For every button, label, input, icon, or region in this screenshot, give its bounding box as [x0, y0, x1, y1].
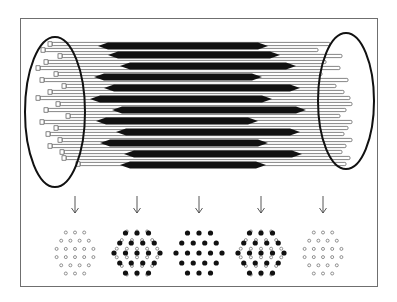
filament-bundle-diagram [0, 0, 397, 302]
open-filament-dot [308, 264, 311, 267]
open-filament-dot [83, 247, 86, 250]
open-filament-dot [60, 239, 63, 242]
filament-end-cap [56, 102, 60, 106]
open-filament-dot [69, 239, 72, 242]
solid-filament-dot [258, 270, 263, 275]
solid-filament-dot [202, 240, 207, 245]
solid-filament-dot [270, 270, 275, 275]
solid-filament-dot [235, 250, 240, 255]
open-filament-dot [260, 247, 263, 250]
open-filament-dot [92, 247, 95, 250]
filament-end-cap [62, 156, 66, 160]
solid-filament-dot [185, 230, 190, 235]
solid-filament-dot [146, 250, 151, 255]
solid-filament-dot [219, 250, 224, 255]
filament-end-cap [60, 150, 64, 154]
solid-filament-dot [123, 250, 128, 255]
open-filament-dot [156, 247, 159, 250]
open-filament-dot [74, 256, 77, 259]
open-filament-dot [69, 264, 72, 267]
solid-filament-dot [191, 260, 196, 265]
solid-filament-dot [208, 250, 213, 255]
open-filament-dot [125, 256, 128, 259]
open-filament-dot [322, 231, 325, 234]
open-filament-dot [125, 247, 128, 250]
open-filament-dot [64, 231, 67, 234]
solid-filament-dot [264, 240, 269, 245]
open-filament-dot [146, 247, 149, 250]
open-filaments [36, 42, 352, 166]
solid-filament-dot [258, 250, 263, 255]
open-filament-dot [322, 247, 325, 250]
open-filament-dot [317, 239, 320, 242]
open-filament-dot [312, 231, 315, 234]
solid-filament-dot [146, 230, 151, 235]
open-filament-dot [55, 247, 58, 250]
solid-filament [100, 140, 268, 147]
filament-end-cap [54, 72, 58, 76]
filament-end-cap [46, 132, 50, 136]
solid-filament-dot [196, 270, 201, 275]
open-filament-dot [312, 272, 315, 275]
solid-filament-dot [117, 240, 122, 245]
open-filament [70, 114, 340, 117]
open-filament-dot [78, 239, 81, 242]
filament-end-cap [40, 120, 44, 124]
filament-end-cap [48, 90, 52, 94]
solid-filament-dot [276, 260, 281, 265]
filament-end-cap [44, 60, 48, 64]
solid-filament-dot [214, 260, 219, 265]
open-filament-dot [249, 256, 252, 259]
solid-filament-dot [129, 240, 134, 245]
open-filament-dot [335, 264, 338, 267]
solid-filament-dot [185, 250, 190, 255]
open-filament-dot [331, 272, 334, 275]
open-filament-dot [270, 256, 273, 259]
open-filament-dot [326, 239, 329, 242]
solid-filament-dot [270, 230, 275, 235]
open-filament-dot [74, 272, 77, 275]
open-filament-dot [78, 264, 81, 267]
solid-filament [124, 151, 302, 158]
open-filament-dot [340, 256, 343, 259]
solid-filament-dot [123, 230, 128, 235]
open-filament-dot [136, 256, 139, 259]
filament-end-cap [36, 96, 40, 100]
solid-filament-dot [179, 240, 184, 245]
open-filament-dot [60, 264, 63, 267]
open-filament-dot [239, 247, 242, 250]
filament-end-cap [48, 42, 52, 46]
filament-end-cap [41, 48, 45, 52]
solid-filament-dot [140, 240, 145, 245]
solid-filament-dot [134, 230, 139, 235]
solid-filament-dot [196, 230, 201, 235]
open-filament-dot [83, 272, 86, 275]
solid-filament-dot [253, 260, 258, 265]
solid-filament-dot [191, 240, 196, 245]
solid-filament-dot [196, 250, 201, 255]
solid-filament [94, 74, 262, 81]
open-filament-dot [87, 264, 90, 267]
solid-filament-dot [208, 230, 213, 235]
open-filament-dot [55, 256, 58, 259]
solid-filament-dot [129, 260, 134, 265]
solid-filament-dot [134, 270, 139, 275]
open-filament-dot [156, 256, 159, 259]
solid-filament [104, 85, 300, 92]
open-filament-dot [270, 247, 273, 250]
solid-filament-dot [146, 270, 151, 275]
solid-filament-dot [214, 240, 219, 245]
open-filament-dot [146, 256, 149, 259]
open-filament-dot [83, 231, 86, 234]
solid-filament-dot [247, 230, 252, 235]
solid-filament-dot [117, 260, 122, 265]
open-filament-dot [331, 247, 334, 250]
open-filament-dot [136, 247, 139, 250]
open-filament-dot [308, 239, 311, 242]
solid-filament-dot [157, 250, 162, 255]
open-filament-dot [280, 256, 283, 259]
solid-filament-dot [270, 250, 275, 255]
solid-filament-dot [179, 260, 184, 265]
filament-end-cap [62, 84, 66, 88]
solid-filament-dot [173, 250, 178, 255]
